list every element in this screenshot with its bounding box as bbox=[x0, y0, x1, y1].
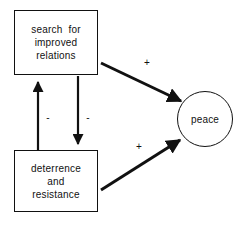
node-peace-label: peace bbox=[191, 114, 219, 125]
node-search-line-2: improved bbox=[35, 36, 78, 49]
edge-label-plus-deterrence-to-peace: + bbox=[133, 142, 145, 152]
node-search-for-improved-relations[interactable]: search for improved relations bbox=[14, 10, 98, 75]
node-deterrence-line-1: deterrence bbox=[31, 162, 81, 175]
node-peace[interactable]: peace bbox=[177, 91, 233, 147]
node-deterrence-line-3: resistance bbox=[32, 188, 80, 201]
edge-search-to-peace bbox=[101, 63, 181, 101]
edge-label-plus-search-to-peace: + bbox=[141, 58, 153, 68]
node-search-line-1: search for bbox=[31, 23, 80, 36]
edge-label-minus-deterrence-to-search: - bbox=[42, 113, 54, 123]
edge-label-minus-search-to-deterrence: - bbox=[82, 113, 94, 123]
node-search-line-3: relations bbox=[36, 49, 76, 62]
diagram-canvas: search for improved relations deterrence… bbox=[0, 0, 247, 226]
node-deterrence-and-resistance[interactable]: deterrence and resistance bbox=[14, 150, 98, 212]
node-deterrence-line-2: and bbox=[47, 175, 64, 188]
